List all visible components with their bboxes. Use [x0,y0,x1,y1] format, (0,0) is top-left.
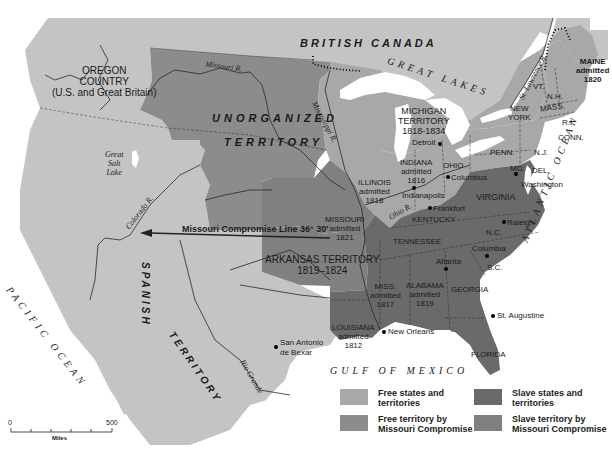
label-illinois: ILLINOIS admitted 1818 [358,178,391,205]
legend-label-slave-states: Slave states and territories [512,388,602,408]
city-dot-detroit [438,142,442,146]
great-salt-line-3: Lake [105,168,123,177]
missouri-line-3: 1821 [325,233,365,242]
ny-line-2: YORK [508,113,531,122]
city-dot-san-antonio [274,345,278,349]
city-atlanta: Atlanta [436,257,461,267]
city-dot-new-orleans [382,330,386,334]
great-salt-line-1: Great [105,150,123,159]
city-new-orleans: New Orleans [388,327,434,337]
label-new-york: NEW YORK [508,104,531,122]
legend-item-free-territory-mc: Free territory by Missouri Compromise [340,414,478,434]
city-dot-st-augustine [491,314,495,318]
legend-item-free-states: Free states and territories [340,388,468,408]
label-sc: S.C. [487,263,503,272]
city-frankfort: Frankfort [433,204,465,214]
louisiana-line-2: admitted [332,332,375,341]
oregon-line-2: COUNTRY [52,76,156,87]
city-dot-raleigh [502,220,506,224]
scale-end: 500 [106,418,118,427]
label-tennessee: TENNESSEE [393,237,441,246]
illinois-line-2: admitted [358,187,391,196]
alabama-line-3: 1819 [406,299,444,308]
miss-line-1: MISS. [370,282,401,291]
legend: Free states and territories Slave states… [340,388,608,438]
michigan-line-1: MICHIGAN [398,106,450,116]
indiana-line-1: INDIANA [400,158,432,167]
label-british-canada: BRITISH CANADA [300,38,437,48]
scale-bar: 0 500 Miles [8,420,118,450]
alabama-line-2: admitted [406,290,444,299]
city-columbus: Columbus [451,173,487,183]
michigan-line-3: 1818-1834 [398,126,450,136]
city-san-antonio: San Antonio de Bexar [280,338,323,358]
legend-swatch-free-states [340,389,368,405]
city-dot-atlanta [444,267,448,271]
city-columbia: Columbia [472,244,506,254]
legend-label-free-territory-mc: Free territory by Missouri Compromise [378,414,478,434]
miss-line-2: admitted [370,291,401,300]
label-louisiana: LOUISIANA admitted 1812 [332,323,375,350]
illinois-line-1: ILLINOIS [358,178,391,187]
label-georgia: GEORGIA [451,285,488,294]
ny-line-1: NEW [508,104,531,113]
label-nc: N.C. [486,228,502,237]
label-gulf-of-mexico: GULF OF MEXICO [330,366,468,376]
label-kentucky: KENTUCKY [412,215,456,224]
san-antonio-line-2: de Bexar [280,348,323,358]
illinois-line-3: 1818 [358,196,391,205]
legend-swatch-slave-states [474,389,502,405]
city-dot-frankfort [428,206,432,210]
oregon-line-3: (U.S. and Great Britain) [52,87,156,98]
map-title-fragment [0,0,608,8]
city-detroit: Detroit [412,138,436,148]
label-missouri: MISSOURI admitted 1821 [325,215,365,242]
legend-item-slave-states: Slave states and territories [474,388,602,408]
label-spanish: SPANISH [140,262,150,327]
great-salt-line-2: Salt [105,159,123,168]
label-michigan-territory: MICHIGAN TERRITORY 1818-1834 [398,106,450,136]
missouri-line-1: MISSOURI [325,215,365,224]
michigan-line-2: TERRITORY [398,116,450,126]
legend-swatch-free-territory-mc [340,415,368,431]
label-indiana: INDIANA admitted 1816 [400,158,432,185]
label-compromise-line: Missouri Compromise Line 36° 30' [182,224,328,234]
arkansas-line-1: ARKANSAS TERRITORY [265,254,379,265]
louisiana-line-3: 1812 [332,341,375,350]
label-arkansas-territory: ARKANSAS TERRITORY 1819–1824 [265,254,379,276]
label-nj: N.J. [534,148,548,157]
maine-line-2: admitted [576,66,609,75]
city-dot-columbia [485,254,489,258]
city-dot-columbus [446,175,450,179]
label-mississippi: MISS. admitted 1817 [370,282,401,309]
label-ohio: OHIO [443,161,463,170]
alabama-line-1: ALABAMA [406,281,444,290]
missouri-line-2: admitted [325,224,365,233]
indiana-line-3: 1816 [400,176,432,185]
louisiana-line-1: LOUISIANA [332,323,375,332]
legend-label-free-states: Free states and territories [378,388,468,408]
label-virginia: VIRGINIA [476,193,516,202]
label-oregon-country: OREGON COUNTRY (U.S. and Great Britain) [52,65,156,98]
city-st-augustine: St. Augustine [497,311,544,321]
city-dot-indianapolis [412,186,416,190]
legend-item-slave-territory-mc: Slave territory by Missouri Compromise [474,414,612,434]
miss-line-3: 1817 [370,300,401,309]
indiana-line-2: admitted [400,167,432,176]
oregon-line-1: OREGON [52,65,156,76]
label-maine: MAINE admitted 1820 [576,57,609,84]
scale-start: 0 [8,418,12,427]
san-antonio-line-1: San Antonio [280,338,323,348]
city-dot-washington [514,172,518,176]
city-indianapolis: Indianapolis [402,191,445,201]
label-territory: TERRITORY [224,137,323,147]
label-alabama: ALABAMA admitted 1819 [406,281,444,308]
maine-line-1: MAINE [576,57,609,66]
label-great-salt-lake: Great Salt Lake [105,150,123,177]
label-nh: N.H. [547,92,563,101]
scale-unit: Miles [52,434,67,443]
legend-label-slave-territory-mc: Slave territory by Missouri Compromise [512,414,612,434]
maine-line-3: 1820 [576,75,609,84]
label-florida: FLORIDA [471,350,506,359]
arkansas-line-2: 1819–1824 [265,265,379,276]
